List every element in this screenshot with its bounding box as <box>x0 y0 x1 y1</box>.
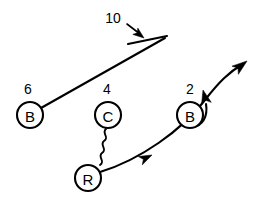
callout-10: 10 <box>105 10 146 41</box>
player-c[interactable]: C <box>95 102 121 128</box>
route-b-right-hook-arrowhead <box>198 89 211 105</box>
route-c-to-r-motion <box>100 129 106 165</box>
route-r-deep-mid-arrowhead <box>138 151 154 165</box>
player-b-left-letter: B <box>25 108 35 125</box>
route-number-b-right: 2 <box>186 81 194 97</box>
play-diagram-canvas: B 6 C 4 B 2 R 10 <box>0 0 268 201</box>
route-b-left-block <box>41 36 167 108</box>
route-c-to-r-motion-path <box>100 129 106 165</box>
callout-10-label: 10 <box>105 10 121 26</box>
route-r-deep-arrowhead <box>232 57 250 74</box>
player-c-letter: C <box>103 108 114 125</box>
route-b-left-block-path <box>41 38 165 108</box>
route-number-b-left: 6 <box>24 81 32 97</box>
player-b-right[interactable]: B <box>177 102 203 128</box>
player-r-letter: R <box>83 171 94 188</box>
player-b-left[interactable]: B <box>17 102 43 128</box>
player-r[interactable]: R <box>75 165 101 191</box>
play-diagram: B 6 C 4 B 2 R 10 <box>0 0 268 201</box>
route-r-deep <box>100 57 250 172</box>
route-number-c: 4 <box>103 81 111 97</box>
player-b-right-letter: B <box>185 108 195 125</box>
